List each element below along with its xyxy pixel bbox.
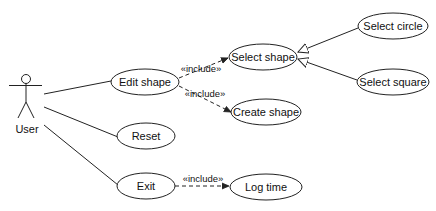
use-case-select-shape[interactable]: Select shape — [229, 44, 297, 70]
use-case-create-shape[interactable]: Create shape — [231, 99, 301, 125]
use-case-label: Log time — [245, 181, 287, 193]
use-case-label: Select circle — [363, 20, 422, 32]
actor-head-icon — [22, 75, 31, 84]
use-case-reset[interactable]: Reset — [117, 123, 175, 149]
use-case-log-time[interactable]: Log time — [230, 174, 302, 200]
include-label-logtime: «include» — [183, 173, 224, 184]
association-user-edit-shape — [44, 81, 111, 94]
use-case-select-square[interactable]: Select square — [357, 69, 429, 95]
use-case-label: Select shape — [231, 51, 295, 63]
use-case-label: Reset — [132, 130, 161, 142]
actor-leg-left — [18, 102, 26, 118]
actor-leg-right — [26, 102, 34, 118]
use-case-exit[interactable]: Exit — [117, 173, 175, 199]
include-label-select: «include» — [181, 63, 222, 74]
generalization-circle-to-select — [298, 28, 358, 52]
actor-user[interactable]: User — [9, 75, 42, 136]
include-label-create: «include» — [185, 88, 226, 99]
actor-label: User — [15, 123, 39, 135]
association-user-reset — [44, 107, 118, 137]
association-user-exit — [44, 125, 118, 185]
generalization-square-to-select — [298, 59, 357, 80]
use-case-label: Select square — [359, 76, 426, 88]
use-case-label: Exit — [137, 180, 155, 192]
use-case-label: Edit shape — [119, 76, 171, 88]
use-case-edit-shape[interactable]: Edit shape — [111, 69, 179, 95]
use-case-diagram: User «include» «include» «include» Edit … — [0, 0, 436, 211]
use-case-select-circle[interactable]: Select circle — [358, 13, 428, 39]
use-case-label: Create shape — [233, 106, 299, 118]
